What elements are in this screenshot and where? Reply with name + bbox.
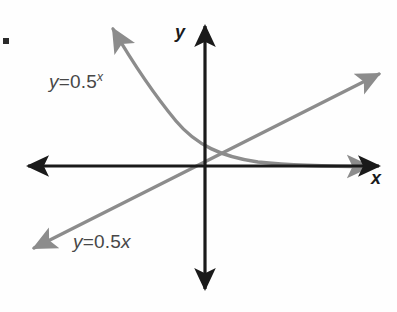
linear-x-variable: x xyxy=(121,231,131,252)
graph-canvas xyxy=(0,0,397,312)
exponential-equation-label: y=0.5x xyxy=(49,70,103,93)
exponential-exponent: x xyxy=(97,70,103,84)
linear-equals: = xyxy=(83,231,94,252)
corner-bullet-mark xyxy=(3,38,9,44)
exponential-equals: = xyxy=(59,71,70,92)
x-axis-label: x xyxy=(371,168,381,189)
exponential-variable: y xyxy=(49,71,59,92)
linear-coefficient: 0.5 xyxy=(94,231,121,252)
y-axis-label: y xyxy=(175,22,185,43)
math-graph-figure: y=0.5x y=0.5x y x xyxy=(0,0,397,312)
linear-equation-label: y=0.5x xyxy=(73,231,131,253)
exponential-base: 0.5 xyxy=(70,71,97,92)
linear-variable: y xyxy=(73,231,83,252)
